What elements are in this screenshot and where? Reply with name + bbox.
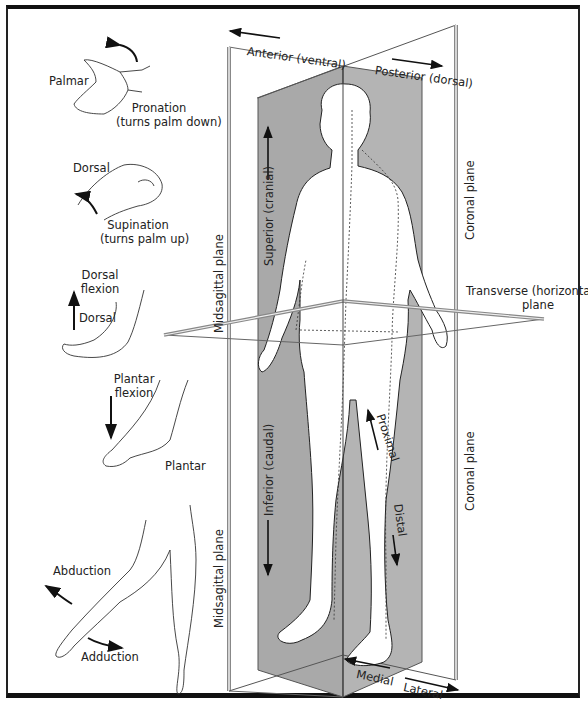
label-dorsal-hand: Dorsal: [73, 161, 110, 175]
label-plantar-flexion: Plantar flexion: [112, 372, 156, 400]
label-pronation: Pronation (turns palm down): [116, 101, 202, 129]
label-adduction: Adduction: [81, 650, 139, 664]
label-inferior: Inferior (caudal): [262, 424, 276, 516]
label-transverse: Transverse (horizontal) plane: [466, 284, 586, 312]
label-palmar: Palmar: [49, 74, 89, 88]
label-dorsal-foot: Dorsal: [79, 311, 116, 325]
label-plantar: Plantar: [165, 459, 206, 473]
label-abduction: Abduction: [53, 564, 111, 578]
posterior-arrow: [392, 59, 442, 66]
label-supination: Supination (turns palm up): [100, 218, 176, 246]
label-midsagittal-lower: Midsagittal plane: [212, 529, 226, 628]
label-coronal-upper: Coronal plane: [463, 160, 477, 240]
label-dorsal-flexion: Dorsal flexion: [80, 268, 120, 296]
label-coronal-lower: Coronal plane: [463, 431, 477, 511]
label-midsagittal-upper: Midsagittal plane: [212, 234, 226, 333]
leg-abduction-adduction: [46, 505, 196, 694]
anterior-arrow: [230, 31, 280, 38]
label-superior: Superior (cranial): [262, 166, 276, 266]
anatomy-diagram: [0, 0, 588, 707]
